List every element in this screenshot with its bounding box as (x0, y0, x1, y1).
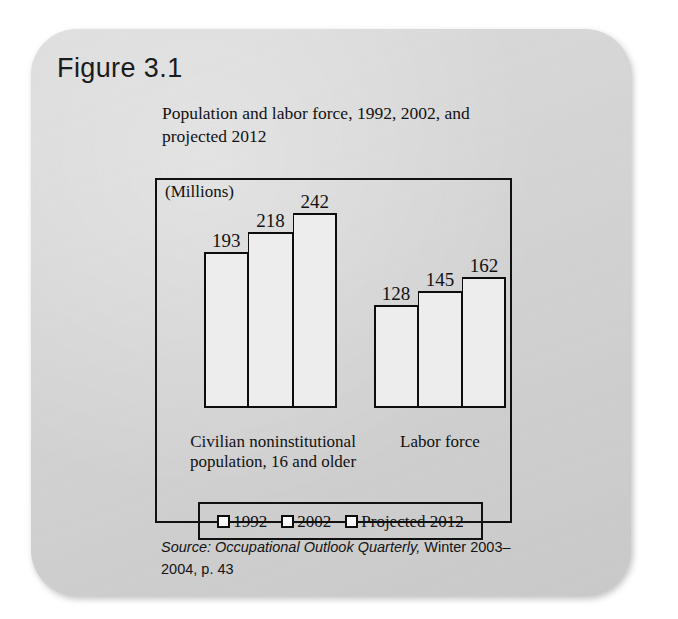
figure-card: Figure 3.1 Population and labor force, 1… (31, 29, 631, 596)
category-label-line: population, 16 and older (190, 452, 356, 471)
bar-rect-civilian-2002 (248, 232, 292, 408)
bar-value-civilian-projected-2012: 242 (301, 192, 330, 212)
category-label-labor-force: Labor force (367, 432, 513, 452)
bar-group-labor-force: 128 145 162 (374, 198, 506, 408)
legend-item-1992[interactable]: 1992 (217, 512, 267, 531)
legend-label-1992: 1992 (233, 512, 267, 531)
bar-value-labor-1992: 128 (382, 284, 411, 304)
bar-civilian-1992[interactable]: 193 (204, 198, 248, 408)
source-publication-title: Source: Occupational Outlook Quarterly, (161, 539, 420, 555)
legend-label-2002: 2002 (297, 512, 331, 531)
bar-rect-civilian-1992 (204, 252, 248, 408)
legend-item-2002[interactable]: 2002 (281, 512, 331, 531)
chart-legend: 1992 2002 Projected 2012 (198, 502, 483, 540)
chart-plot-frame: (Millions) 193 218 242 (155, 178, 512, 523)
legend-swatch-2002 (281, 515, 294, 528)
bar-rect-labor-projected-2012 (462, 277, 506, 408)
figure-number-label: Figure 3.1 (57, 53, 183, 83)
legend-swatch-projected-2012 (345, 515, 358, 528)
bar-rect-labor-1992 (374, 305, 418, 408)
bar-civilian-2002[interactable]: 218 (248, 198, 292, 408)
bar-labor-projected-2012[interactable]: 162 (462, 198, 506, 408)
bars-row: 193 218 242 (204, 198, 337, 408)
category-label-civilian-population: Civilian noninstitutional population, 16… (175, 432, 371, 472)
bar-rect-civilian-projected-2012 (293, 213, 337, 408)
legend-item-projected-2012[interactable]: Projected 2012 (345, 512, 463, 531)
bar-rect-labor-2002 (418, 291, 462, 408)
bar-value-civilian-2002: 218 (256, 211, 285, 231)
category-label-line: Civilian noninstitutional (190, 432, 356, 451)
bar-labor-1992[interactable]: 128 (374, 198, 418, 408)
legend-label-projected-2012: Projected 2012 (361, 512, 463, 531)
category-label-line: Labor force (400, 432, 480, 451)
bar-value-labor-2002: 145 (426, 270, 455, 290)
bar-civilian-projected-2012[interactable]: 242 (293, 198, 337, 408)
bar-value-civilian-1992: 193 (212, 231, 241, 251)
bars-row: 128 145 162 (374, 198, 506, 408)
legend-swatch-1992 (217, 515, 230, 528)
chart-title: Population and labor force, 1992, 2002, … (162, 102, 492, 148)
bar-value-labor-projected-2012: 162 (470, 256, 499, 276)
source-note: Source: Occupational Outlook Quarterly, … (161, 536, 521, 580)
bar-labor-2002[interactable]: 145 (418, 198, 462, 408)
bar-group-civilian-population: 193 218 242 (204, 198, 337, 408)
